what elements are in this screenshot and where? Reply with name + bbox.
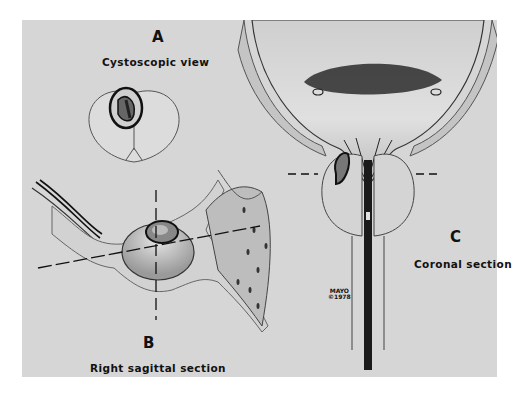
- panel-c-caption: Coronal section: [414, 258, 512, 270]
- panel-c-label: C: [450, 228, 461, 246]
- watermark-line2: ©1978: [328, 294, 351, 300]
- cystoscopic-view-drawing: [89, 88, 179, 162]
- panel-b-label: B: [143, 334, 154, 352]
- coronal-section-drawing: [238, 20, 497, 370]
- anatomical-illustration: [22, 20, 497, 377]
- sagittal-section-drawing: [32, 170, 270, 332]
- figure-panel: A Cystoscopic view B Right sagittal sect…: [22, 20, 497, 377]
- watermark: MAYO ©1978: [328, 288, 351, 300]
- panel-b-caption: Right sagittal section: [90, 362, 226, 374]
- panel-a-label: A: [152, 28, 164, 46]
- panel-a-caption: Cystoscopic view: [102, 56, 209, 68]
